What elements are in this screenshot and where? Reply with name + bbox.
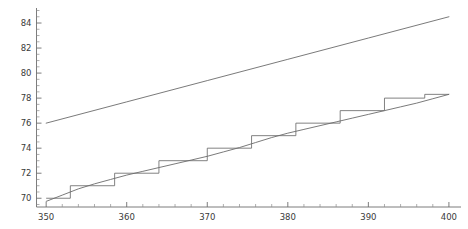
y-tick-label: 78 xyxy=(21,93,32,103)
x-tick-label: 370 xyxy=(199,212,215,222)
x-tick-label: 360 xyxy=(119,212,135,222)
y-tick-label: 70 xyxy=(21,193,32,203)
y-tick-label: 82 xyxy=(21,43,32,53)
series-upper-line xyxy=(46,17,449,123)
data-series-group xyxy=(46,17,449,202)
y-tick-label: 84 xyxy=(21,18,32,28)
x-axis-major-ticks xyxy=(46,202,449,207)
plot-container: 350360370380390400 7072747678808284 xyxy=(0,0,468,229)
x-tick-label: 390 xyxy=(360,212,376,222)
chart-canvas: 350360370380390400 7072747678808284 xyxy=(0,0,468,229)
y-tick-label: 74 xyxy=(21,143,32,153)
y-tick-label: 76 xyxy=(21,118,32,128)
x-axis-tick-labels: 350360370380390400 xyxy=(38,212,457,222)
y-tick-label: 72 xyxy=(21,168,32,178)
y-tick-label: 80 xyxy=(21,68,32,78)
x-tick-label: 380 xyxy=(280,212,296,222)
x-tick-label: 350 xyxy=(38,212,54,222)
x-tick-label: 400 xyxy=(441,212,457,222)
y-axis-tick-labels: 7072747678808284 xyxy=(21,18,32,203)
